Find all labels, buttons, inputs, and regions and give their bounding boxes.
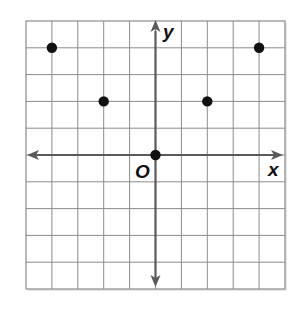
plotted-point — [202, 96, 212, 106]
plotted-point — [150, 150, 160, 160]
plotted-point — [254, 43, 264, 53]
coordinate-grid: x y O — [0, 0, 296, 310]
y-axis-label: y — [162, 21, 175, 42]
plotted-point — [99, 96, 109, 106]
coordinate-plane-figure: x y O — [0, 0, 296, 310]
x-axis-label: x — [267, 159, 280, 180]
plotted-point — [47, 43, 57, 53]
origin-label: O — [135, 161, 150, 182]
